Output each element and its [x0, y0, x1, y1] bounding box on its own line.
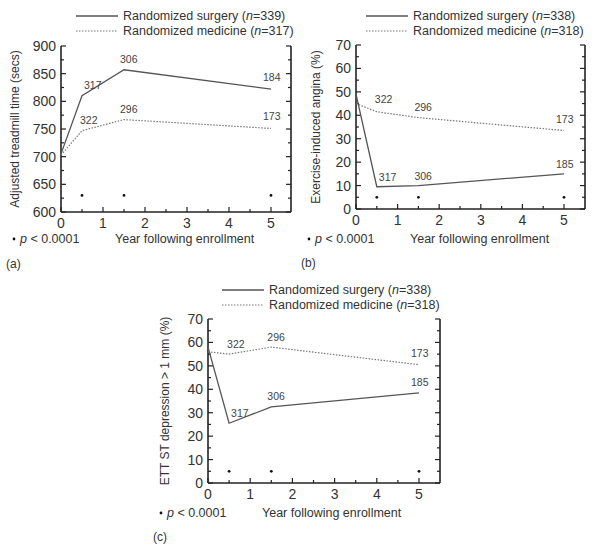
- significance-marker: [228, 470, 231, 473]
- legend-label: Randomized medicine (n=318): [413, 24, 584, 38]
- x-tick-label: 0: [57, 215, 65, 231]
- point-label: 173: [263, 110, 281, 122]
- y-tick-label: 600: [33, 204, 57, 220]
- y-tick-label: 10: [187, 452, 203, 468]
- y-tick-label: 60: [335, 60, 351, 76]
- x-tick-label: 0: [352, 212, 360, 228]
- y-tick-label: 20: [335, 154, 351, 170]
- footnote-marker: [13, 238, 16, 241]
- point-label: 296: [414, 101, 432, 113]
- significance-marker: [417, 196, 420, 199]
- series-line-medicine: [356, 104, 564, 131]
- point-label: 322: [375, 93, 393, 105]
- y-tick-label: 50: [187, 358, 203, 374]
- significance-marker: [270, 194, 273, 197]
- y-axis-label: Adjusted treadmill time (secs): [8, 50, 22, 207]
- x-tick-label: 5: [560, 212, 568, 228]
- y-tick-label: 20: [187, 428, 203, 444]
- significance-marker: [270, 470, 273, 473]
- point-label: 317: [379, 171, 397, 183]
- y-axis-label: ETT ST depression > 1 mm (%): [158, 317, 172, 486]
- y-tick-label: 70: [187, 311, 203, 327]
- legend-label: Randomized surgery (n=338): [269, 283, 431, 297]
- x-tick-label: 4: [373, 486, 381, 502]
- significance-marker: [418, 470, 421, 473]
- point-label: 306: [120, 53, 138, 65]
- x-tick-label: 5: [415, 486, 423, 502]
- point-label: 306: [267, 390, 285, 402]
- chart-panel-a: 600650700750800850900012345Adjusted trea…: [6, 9, 294, 271]
- y-tick-label: 60: [187, 334, 203, 350]
- significance-marker: [81, 194, 84, 197]
- panel-label: (c): [153, 530, 167, 544]
- x-tick-label: 3: [477, 212, 485, 228]
- y-tick-label: 650: [33, 176, 57, 192]
- y-tick-label: 0: [195, 475, 203, 491]
- y-tick-label: 50: [335, 84, 351, 100]
- y-tick-label: 850: [33, 66, 57, 82]
- significance-marker: [563, 196, 566, 199]
- footnote-marker: [308, 238, 311, 241]
- x-tick-label: 2: [435, 212, 443, 228]
- point-label: 185: [411, 376, 429, 388]
- y-tick-label: 0: [343, 201, 351, 217]
- x-tick-label: 1: [394, 212, 402, 228]
- legend: Randomized surgery (n=338)Randomized med…: [366, 9, 584, 38]
- y-tick-label: 30: [187, 405, 203, 421]
- x-tick-label: 4: [519, 212, 527, 228]
- footnote-pvalue: p < 0.0001: [19, 232, 79, 246]
- x-tick-label: 1: [99, 215, 107, 231]
- x-axis-label: Year following enrollment: [262, 506, 402, 520]
- figure: 600650700750800850900012345Adjusted trea…: [0, 0, 601, 556]
- legend: Randomized surgery (n=338)Randomized med…: [222, 283, 440, 312]
- y-axis-label: Exercise-induced angina (%): [309, 50, 323, 203]
- x-tick-label: 3: [331, 486, 339, 502]
- significance-marker: [123, 194, 126, 197]
- y-tick-label: 900: [33, 38, 57, 54]
- point-label: 173: [556, 113, 574, 125]
- legend-label: Randomized medicine (n=318): [269, 298, 440, 312]
- point-label: 317: [231, 407, 249, 419]
- x-tick-label: 2: [141, 215, 149, 231]
- x-tick-label: 3: [183, 215, 191, 231]
- x-axis-label: Year following enrollment: [115, 232, 255, 246]
- y-tick-label: 10: [335, 178, 351, 194]
- footnote-marker: [160, 512, 163, 515]
- y-tick-label: 40: [187, 381, 203, 397]
- point-label: 296: [120, 103, 138, 115]
- point-label: 322: [227, 338, 245, 350]
- point-label: 173: [411, 347, 429, 359]
- chart-panel-c: 010203040506070012345ETT ST depression >…: [153, 283, 440, 544]
- footnote-pvalue: p < 0.0001: [166, 506, 226, 520]
- point-label: 296: [267, 331, 285, 343]
- x-tick-label: 5: [267, 215, 275, 231]
- panel-label: (a): [6, 257, 21, 271]
- chart-panel-b: 010203040506070012345Exercise-induced an…: [301, 9, 585, 270]
- y-tick-label: 30: [335, 131, 351, 147]
- point-label: 322: [80, 114, 98, 126]
- x-tick-label: 4: [225, 215, 233, 231]
- point-label: 185: [556, 158, 574, 170]
- significance-marker: [375, 196, 378, 199]
- legend-label: Randomized medicine (n=317): [123, 24, 294, 38]
- panel-label: (b): [301, 256, 316, 270]
- point-label: 184: [263, 71, 281, 83]
- x-axis-label: Year following enrollment: [410, 232, 550, 246]
- x-tick-label: 0: [204, 486, 212, 502]
- y-tick-label: 70: [335, 37, 351, 53]
- point-label: 306: [414, 170, 432, 182]
- x-tick-label: 1: [246, 486, 254, 502]
- y-tick-label: 40: [335, 107, 351, 123]
- legend-label: Randomized surgery (n=339): [123, 9, 285, 23]
- point-label: 317: [84, 79, 102, 91]
- y-tick-label: 800: [33, 93, 57, 109]
- y-tick-label: 700: [33, 149, 57, 165]
- y-tick-label: 750: [33, 121, 57, 137]
- legend-label: Randomized surgery (n=338): [413, 9, 575, 23]
- x-tick-label: 2: [289, 486, 297, 502]
- legend: Randomized surgery (n=339)Randomized med…: [76, 9, 294, 38]
- footnote-pvalue: p < 0.0001: [314, 232, 374, 246]
